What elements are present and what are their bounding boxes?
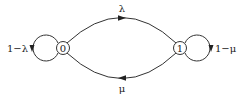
self-loop-label-0: 1−λ [7,43,29,54]
self-loop-1 [185,35,210,61]
state-0-label: 0 [60,43,66,54]
state-0: 0 [57,42,70,55]
edge-1-to-0 [67,53,176,79]
edge-label-lambda: λ [119,3,126,14]
state-1-label: 1 [177,43,183,54]
markov-chain-diagram: λ μ 1−λ 1−μ 0 1 [0,0,243,96]
self-loop-label-1: 1−μ [215,43,237,54]
state-1: 1 [174,42,187,55]
arrow-left-icon [118,75,126,81]
arrow-right-icon [118,15,126,21]
edge-0-to-1 [67,18,176,44]
self-loop-0 [33,35,58,61]
edge-label-mu: μ [119,83,126,94]
